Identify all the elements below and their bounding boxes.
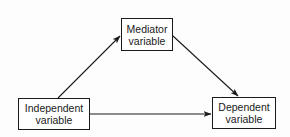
mediator-label-line2: variable [129, 35, 166, 47]
mediation-diagram: Mediator variable Independent variable D… [0, 0, 290, 137]
independent-label-line2: variable [36, 114, 73, 126]
arrow-mediator-to-dependent [173, 36, 238, 96]
dependent-label-line1: Dependent [218, 101, 269, 113]
dependent-label-line2: variable [226, 113, 263, 125]
dependent-variable-node: Dependent variable [212, 97, 276, 129]
mediator-label-line1: Mediator [127, 23, 168, 35]
independent-label-line1: Independent [25, 102, 83, 114]
independent-variable-node: Independent variable [18, 98, 90, 130]
arrow-independent-to-mediator [58, 36, 120, 98]
mediator-variable-node: Mediator variable [121, 18, 173, 51]
